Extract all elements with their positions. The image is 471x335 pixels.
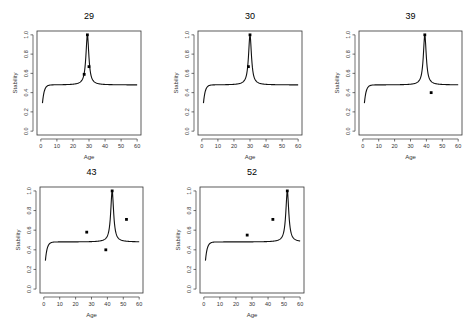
data-point [423, 33, 426, 36]
y-tick-label: 0.8 [345, 50, 351, 58]
y-tick-label: 1.0 [184, 31, 190, 39]
y-tick-label: 0.0 [186, 285, 192, 293]
y-axis-label: Stability [334, 72, 340, 93]
y-axis-label: Stability [12, 72, 18, 93]
y-axis-label: Stability [175, 229, 181, 250]
y-tick-label: 0.6 [345, 70, 351, 78]
y-tick-label: 0.6 [186, 226, 192, 234]
y-tick-label: 0.2 [23, 108, 29, 116]
x-tick-label: 50 [281, 301, 287, 307]
y-tick-label: 0.2 [184, 108, 190, 116]
panel-title: 29 [84, 11, 94, 21]
y-axis-label: Stability [15, 229, 21, 250]
y-tick-label: 0.8 [186, 207, 192, 215]
x-tick-label: 30 [86, 143, 92, 149]
y-axis: 0.00.20.40.60.81.0 [23, 31, 33, 135]
plot-frame [37, 31, 141, 135]
x-axis-label: Age [247, 312, 258, 318]
y-axis: 0.00.20.40.60.81.0 [184, 31, 194, 135]
stability-curve [205, 191, 300, 261]
stability-curve [42, 35, 137, 103]
y-tick-label: 1.0 [26, 187, 32, 195]
data-point [246, 234, 249, 237]
x-tick-label: 10 [57, 301, 63, 307]
data-point [247, 65, 250, 68]
x-tick-label: 50 [118, 143, 124, 149]
y-axis: 0.00.20.40.60.81.0 [26, 187, 36, 293]
plot-frame [198, 31, 302, 135]
panel-52: 520102030405060Age0.00.20.40.60.81.0Stab… [175, 167, 304, 318]
x-tick-label: 50 [439, 143, 445, 149]
panel-title: 52 [247, 167, 257, 177]
data-point [125, 218, 128, 221]
x-tick-label: 40 [265, 301, 271, 307]
x-axis-label: Age [245, 154, 256, 160]
data-point [88, 65, 91, 68]
y-axis: 0.00.20.40.60.81.0 [345, 31, 355, 135]
data-point [86, 33, 89, 36]
x-tick-label: 60 [295, 143, 301, 149]
x-tick-label: 10 [376, 143, 382, 149]
x-tick-label: 30 [88, 301, 94, 307]
x-tick-label: 10 [217, 301, 223, 307]
x-tick-label: 20 [231, 143, 237, 149]
stability-curve [203, 35, 298, 103]
y-tick-label: 1.0 [23, 31, 29, 39]
y-tick-label: 0.2 [186, 266, 192, 274]
data-point [249, 33, 252, 36]
x-tick-label: 30 [407, 143, 413, 149]
y-tick-label: 1.0 [186, 187, 192, 195]
x-tick-label: 30 [249, 301, 255, 307]
x-tick-label: 20 [233, 301, 239, 307]
y-axis: 0.00.20.40.60.81.0 [186, 187, 196, 293]
y-axis-label: Stability [173, 72, 179, 93]
y-tick-label: 0.8 [26, 207, 32, 215]
x-tick-label: 40 [423, 143, 429, 149]
stability-curve [364, 35, 458, 103]
x-tick-label: 40 [102, 143, 108, 149]
stability-curve [45, 191, 139, 261]
panel-title: 43 [86, 167, 96, 177]
y-tick-label: 0.4 [184, 89, 190, 97]
data-point [83, 73, 86, 76]
panel-39: 390102030405060Age0.00.20.40.60.81.0Stab… [334, 11, 462, 160]
data-point [430, 91, 433, 94]
plot-frame [359, 31, 462, 135]
x-tick-label: 50 [120, 301, 126, 307]
x-tick-label: 40 [104, 301, 110, 307]
y-tick-label: 0.6 [23, 70, 29, 78]
data-point [104, 248, 107, 251]
y-tick-label: 0.2 [26, 266, 32, 274]
x-axis: 0102030405060 [202, 297, 303, 307]
x-tick-label: 20 [70, 143, 76, 149]
x-axis-label: Age [84, 154, 95, 160]
y-tick-label: 0.4 [23, 89, 29, 97]
y-tick-label: 0.0 [345, 127, 351, 135]
x-tick-label: 60 [136, 301, 142, 307]
panel-title: 39 [405, 11, 415, 21]
y-tick-label: 0.4 [345, 89, 351, 97]
plot-frame [40, 187, 143, 293]
data-point [271, 218, 274, 221]
y-tick-label: 0.0 [23, 127, 29, 135]
x-tick-label: 50 [279, 143, 285, 149]
x-tick-label: 20 [392, 143, 398, 149]
figure-canvas: 290102030405060Age0.00.20.40.60.81.0Stab… [0, 0, 471, 335]
x-tick-label: 30 [247, 143, 253, 149]
data-point [85, 231, 88, 234]
y-tick-label: 0.0 [26, 285, 32, 293]
panel-29: 290102030405060Age0.00.20.40.60.81.0Stab… [12, 11, 141, 160]
x-tick-label: 60 [455, 143, 461, 149]
x-tick-label: 0 [202, 301, 205, 307]
panel-30: 300102030405060Age0.00.20.40.60.81.0Stab… [173, 11, 302, 160]
x-axis-label: Age [86, 312, 97, 318]
y-tick-label: 0.0 [184, 127, 190, 135]
x-tick-label: 0 [361, 143, 364, 149]
y-tick-label: 0.8 [23, 50, 29, 58]
x-tick-label: 0 [42, 301, 45, 307]
y-tick-label: 0.4 [26, 246, 32, 254]
y-tick-label: 1.0 [345, 31, 351, 39]
x-tick-label: 0 [39, 143, 42, 149]
x-tick-label: 20 [73, 301, 79, 307]
data-point [111, 190, 114, 193]
